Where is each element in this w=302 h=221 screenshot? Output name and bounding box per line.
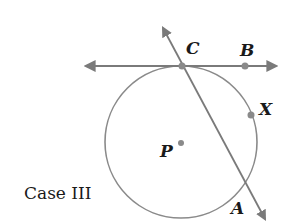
point-x — [248, 112, 255, 119]
label-b: B — [240, 42, 254, 59]
label-a: A — [231, 200, 244, 217]
label-c: C — [186, 40, 200, 57]
label-p: P — [160, 143, 173, 160]
point-c — [179, 63, 186, 70]
label-x: X — [259, 101, 272, 118]
case-caption: Case III — [24, 185, 91, 202]
point-p — [178, 140, 184, 146]
diagram-canvas: C B X P A Case III — [0, 0, 302, 221]
point-b — [242, 63, 249, 70]
